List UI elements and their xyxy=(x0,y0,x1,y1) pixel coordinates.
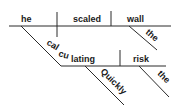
subject-word: he xyxy=(21,14,32,24)
sentence-diagram: he scaled wall the cal cu lating risk Qu… xyxy=(0,0,177,109)
object-word: wall xyxy=(126,14,144,24)
participle-modifier-word: Quickly xyxy=(99,66,129,96)
verb-word: scaled xyxy=(73,14,101,24)
participle-object-modifier-word: the xyxy=(156,68,173,85)
participle-word-curve-2: cu xyxy=(57,48,70,61)
participle-object-word: risk xyxy=(133,54,150,64)
participle-word-curve: cal xyxy=(45,37,61,52)
participle-word-rest: lating xyxy=(71,54,95,64)
